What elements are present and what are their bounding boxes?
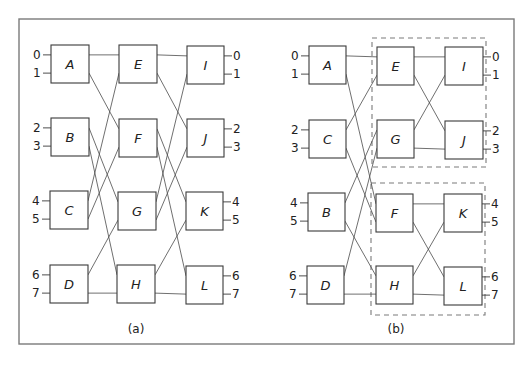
output-port-label: 5: [232, 213, 240, 227]
output-port-label: 6: [491, 270, 499, 284]
switch-label: E: [391, 59, 400, 74]
panel-caption: (b): [388, 322, 405, 336]
input-port-label: 3: [33, 139, 41, 153]
switch-label: A: [322, 58, 332, 73]
switch-label: A: [65, 57, 75, 72]
input-port-label: 1: [33, 66, 41, 80]
input-port-label: 2: [33, 121, 41, 135]
switch-node-G: G: [377, 120, 414, 158]
switch-label: I: [462, 59, 466, 74]
input-port-label: 0: [33, 48, 41, 62]
switch-label: E: [134, 57, 143, 72]
output-port-label: 4: [232, 195, 240, 209]
switch-node-J: J: [445, 121, 483, 159]
panel-caption: (a): [128, 322, 145, 336]
switch-node-F: F: [119, 119, 157, 157]
input-port-label: 5: [290, 214, 298, 228]
switch-label: D: [64, 277, 74, 292]
wire-A-E: [346, 56, 377, 57]
switch-label: K: [459, 206, 469, 221]
switch-label: L: [459, 279, 466, 294]
input-port-label: 2: [291, 123, 299, 137]
input-port-label: 0: [291, 49, 299, 63]
input-port-label: 3: [291, 141, 299, 155]
output-port-label: 0: [233, 49, 241, 63]
output-port-label: 2: [233, 122, 241, 136]
input-port-label: 7: [289, 287, 297, 301]
switch-node-A: A: [309, 46, 346, 84]
switch-node-D: D: [50, 265, 88, 303]
switch-node-B: B: [51, 118, 89, 156]
wire-D-G: [88, 220, 118, 275]
output-port-label: 3: [233, 140, 241, 154]
output-port-label: 2: [492, 124, 500, 138]
switch-label: C: [64, 203, 74, 218]
panel-a-butterfly-network: ABCDEFGHIJKL0123456701234567(a): [32, 45, 241, 336]
wire-B-H: [89, 146, 117, 275]
output-port-label: 1: [492, 68, 500, 82]
switch-label: B: [322, 205, 331, 220]
output-port-label: 3: [492, 142, 500, 156]
output-port-label: 4: [491, 197, 499, 211]
switch-node-K: K: [186, 192, 223, 230]
input-port-label: 1: [291, 67, 299, 81]
wire-A-F: [89, 73, 119, 129]
input-port-label: 7: [32, 286, 40, 300]
switch-label: L: [201, 278, 208, 293]
switch-label: G: [390, 132, 400, 147]
switch-label: D: [320, 278, 330, 293]
switch-node-J: J: [187, 119, 224, 157]
output-port-label: 7: [491, 288, 499, 302]
output-port-label: 5: [491, 215, 499, 229]
switch-node-D: D: [307, 266, 344, 304]
switch-node-E: E: [119, 45, 157, 83]
switch-label: K: [200, 204, 210, 219]
output-port-label: 7: [232, 287, 240, 301]
switch-label: H: [131, 277, 141, 292]
switch-node-H: H: [376, 266, 413, 304]
switch-node-F: F: [376, 194, 413, 232]
switch-label: I: [204, 58, 208, 73]
switch-node-L: L: [186, 266, 223, 304]
switch-node-I: I: [187, 46, 224, 84]
wire-G-J: [414, 148, 445, 149]
switch-label: B: [66, 130, 75, 145]
wire-E-J: [157, 73, 187, 129]
wire-E-I: [157, 55, 187, 56]
input-port-label: 4: [32, 194, 40, 208]
output-port-label: 1: [233, 67, 241, 81]
switch-node-A: A: [51, 45, 89, 83]
output-port-label: 6: [232, 269, 240, 283]
switch-label: F: [391, 206, 399, 221]
switch-node-I: I: [445, 47, 483, 85]
switch-node-E: E: [377, 47, 414, 85]
wire-H-L: [413, 294, 444, 295]
input-port-label: 6: [289, 269, 297, 283]
output-port-label: 0: [492, 50, 500, 64]
switch-node-K: K: [444, 194, 482, 232]
wire-H-L: [155, 293, 186, 294]
switch-node-C: C: [50, 191, 88, 229]
input-port-label: 5: [32, 212, 40, 226]
switch-label: G: [132, 204, 142, 219]
switch-node-H: H: [117, 265, 155, 303]
wire-H-K: [155, 220, 186, 275]
input-port-label: 4: [290, 196, 298, 210]
switch-node-L: L: [444, 267, 482, 305]
panel-b-rearranged-network: ACBDEGFHIJKL0123456701234567(b): [289, 38, 500, 336]
switch-label: F: [134, 131, 142, 146]
input-port-label: 6: [32, 268, 40, 282]
switch-node-C: C: [309, 120, 346, 158]
switch-node-B: B: [308, 193, 345, 231]
switch-node-G: G: [118, 192, 156, 230]
butterfly-network-figure: ABCDEFGHIJKL0123456701234567(a) ACBDEGFH…: [0, 0, 530, 368]
switch-label: H: [390, 278, 400, 293]
switch-label: C: [323, 132, 333, 147]
wire-C-E: [346, 75, 377, 130]
